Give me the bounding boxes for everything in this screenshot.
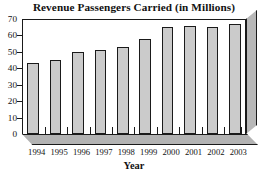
- x-axis-tick-label: 1998: [118, 147, 135, 157]
- bar-chart: Revenue Passengers Carried (in Millions)…: [0, 0, 268, 176]
- x-axis-title: Year: [0, 160, 268, 171]
- x-axis-tick-label: 1999: [140, 147, 157, 157]
- x-axis-tick-label: 2002: [207, 147, 224, 157]
- x-axis-tick-label: 1997: [95, 147, 112, 157]
- x-axis-tick-label: 2000: [163, 147, 180, 157]
- x-axis-tick-label: 2001: [185, 147, 202, 157]
- x-axis-tick-label: 1996: [73, 147, 90, 157]
- x-axis-tick-label: 1995: [51, 147, 68, 157]
- x-axis-tick-label: 1994: [28, 147, 45, 157]
- x-axis-tick-label: 2003: [230, 147, 247, 157]
- x-axis: 1994199519961997199819992000200120022003: [0, 0, 268, 176]
